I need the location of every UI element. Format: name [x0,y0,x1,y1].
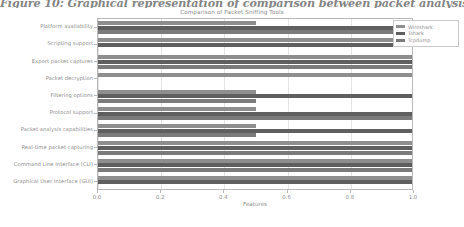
y-tick-label: Export packet captures [32,58,93,64]
x-axis-label: Features [97,201,413,207]
legend-label: Tcpdump [408,37,430,43]
y-tick-label: Real-time packet capturing [21,144,93,150]
bar-wireshark [98,55,413,59]
bar-tshark [98,112,413,116]
bar-group [98,73,412,86]
y-tick-label: Protocol support [50,109,93,115]
legend-swatch-icon [396,25,405,28]
bar-tcpdump [98,168,413,172]
legend-label: Tshark [408,30,424,36]
bar-tcpdump [98,116,413,120]
legend-item: Wireshark [396,24,456,30]
chart-title: Comparison of Packet Sniffing Tools [0,9,464,15]
legend-swatch-icon [396,32,405,35]
x-tick-label: 0.2 [156,194,165,200]
y-tick-label: Scripting support [48,40,93,46]
x-tick-mark [350,190,351,193]
x-tick-label: 0.4 [219,194,228,200]
x-tick-mark [223,190,224,193]
bar-tshark [98,26,413,30]
bar-tcpdump [98,151,413,155]
x-axis: 0.00.20.40.60.81.0 [97,190,413,210]
x-tick-mark [413,190,414,193]
y-tick-label: Packet analysis capabilities [21,126,93,132]
bar-tshark [98,94,413,98]
chart-legend: WiresharkTsharkTcpdump [393,20,459,47]
bar-group [98,124,412,137]
x-tick-label: 1.0 [409,194,418,200]
legend-item: Tcpdump [396,37,456,43]
legend-swatch-icon [396,39,405,42]
bar-wireshark [98,159,413,163]
plot-area [97,18,413,190]
bar-wireshark [98,73,413,77]
bar-tcpdump [98,30,413,34]
bar-group [98,38,412,51]
bar-group [98,107,412,120]
bar-wireshark [98,124,256,128]
y-tick-label: Filtering options [51,92,93,98]
bar-wireshark [98,141,413,145]
y-tick-label: Platform availability [40,23,93,29]
bar-tshark [98,43,413,47]
bar-wireshark [98,107,256,111]
bar-tcpdump [98,133,256,137]
x-tick-mark [97,190,98,193]
y-tick-label: Packet decryption [46,75,93,81]
bar-group [98,159,412,172]
bar-group [98,176,412,189]
x-tick-mark [287,190,288,193]
legend-label: Wireshark [408,24,433,30]
y-tick-label: Graphical User Interface (GUI) [13,178,93,184]
legend-item: Tshark [396,30,456,36]
bar-wireshark [98,176,413,180]
bar-group [98,141,412,154]
x-tick-label: 0.0 [93,194,102,200]
bar-tshark [98,146,413,150]
bar-tshark [98,180,413,184]
y-axis-labels: Platform availabilityScripting supportEx… [0,18,97,190]
bar-wireshark [98,38,413,42]
bar-tshark [98,163,413,167]
bar-group [98,90,412,103]
bar-tshark [98,60,413,64]
x-tick-mark [160,190,161,193]
bar-tcpdump [98,99,256,103]
x-tick-label: 0.6 [282,194,291,200]
figure-panel: Comparison of Packet Sniffing Tools Plat… [0,8,464,227]
y-tick-label: Command Line Interface (CLI) [14,161,93,167]
bar-group [98,21,412,34]
bar-group [98,55,412,68]
bar-wireshark [98,21,256,25]
bar-tcpdump [98,65,413,69]
bar-wireshark [98,90,256,94]
x-tick-label: 0.8 [346,194,355,200]
bar-tshark [98,129,413,133]
